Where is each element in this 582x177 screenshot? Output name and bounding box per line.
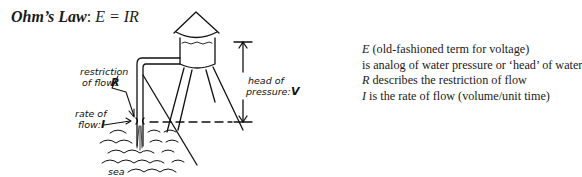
rate-label-line2: flow:	[78, 119, 101, 130]
head-var: V	[291, 85, 301, 98]
legend-item-e: E (old-fashioned term for voltage)	[362, 42, 582, 58]
restriction-var: R	[111, 76, 119, 89]
head-label-line1: head of	[248, 75, 286, 86]
legend-item-r: R describes the restriction of flow	[362, 73, 582, 89]
legend-item-i: I is the rate of flow (volume/unit time)	[362, 89, 582, 105]
head-label-line2: pressure:	[245, 86, 291, 97]
legend-item-e-desc: is analog of water pressure or ‘head’ of…	[362, 58, 582, 74]
legend: E (old-fashioned term for voltage) is an…	[362, 42, 582, 104]
rate-var: I	[101, 118, 105, 131]
tower-roof-icon	[174, 12, 219, 38]
sea-label: sea	[108, 166, 125, 177]
water-tank-icon	[180, 38, 215, 68]
restriction-label-line1: restriction	[80, 66, 128, 77]
